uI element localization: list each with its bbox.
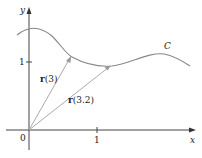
vector-r32-label: r(3.2): [68, 95, 94, 105]
vector-r3: [29, 58, 70, 130]
y-tick-label: 1: [19, 57, 25, 67]
origin-label: 0: [20, 133, 26, 143]
curve-label: C: [164, 41, 171, 51]
vector-r3-arrow-icon: [66, 56, 71, 63]
y-axis-label: y: [19, 5, 26, 15]
x-axis-arrow-icon: [189, 128, 196, 133]
vector-r3-label: r(3): [40, 74, 58, 84]
y-axis-arrow-icon: [27, 7, 32, 14]
vector-r32-arg: (3.2): [73, 95, 94, 105]
vector-function-diagram: y x 0 1 1 C r(3) r(3.2): [0, 0, 202, 158]
x-tick-label: 1: [94, 135, 100, 145]
vector-r3-arg: (3): [45, 74, 58, 84]
x-axis-label: x: [190, 135, 195, 145]
